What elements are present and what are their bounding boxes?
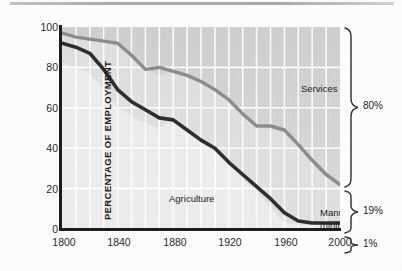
y-tick-60: 60: [24, 103, 58, 113]
series-label-services: Services: [301, 83, 337, 95]
series-label-manufacturing: Manufacturing, mining, and construction: [320, 207, 340, 229]
x-tick-1880: 1880: [152, 236, 198, 248]
y-tick-20: 20: [24, 184, 58, 194]
y-tick-100: 100: [24, 22, 58, 32]
bracket-curly-1-icon: [341, 236, 361, 254]
right-bracket-group: 80% 19% 1%: [341, 20, 402, 240]
y-tick-40: 40: [24, 143, 58, 153]
top-rule-divider: [10, 2, 394, 5]
y-tick-0: 0: [24, 224, 58, 234]
y-tick-80: 80: [24, 62, 58, 72]
x-tick-1920: 1920: [207, 236, 253, 248]
y-axis-title: PERCENTAGE OF EMPLOYMENT: [102, 46, 113, 236]
bracket-curly-19-icon: [341, 190, 361, 234]
x-tick-1960: 1960: [263, 236, 309, 248]
x-tick-1840: 1840: [96, 236, 142, 248]
series-label-agriculture: Agriculture: [169, 193, 214, 205]
y-axis-title-wrap: PERCENTAGE OF EMPLOYMENT: [74, 30, 88, 220]
bracket-label-1: 1%: [363, 238, 377, 249]
y-tick-labels: 100 80 60 40 20 0: [14, 0, 58, 271]
bracket-label-80: 80%: [363, 100, 383, 111]
bracket-label-19: 19%: [363, 205, 383, 216]
x-tick-1800: 1800: [41, 236, 87, 248]
manufacturing-line-1: Manufacturing,: [320, 207, 340, 219]
y-axis-line: [59, 25, 62, 231]
bracket-curly-80-icon: [341, 27, 361, 188]
chart-figure: Services Agriculture Manufacturing, mini…: [0, 0, 402, 271]
